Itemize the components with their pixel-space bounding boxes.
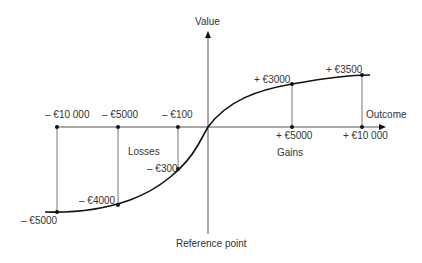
value-axis-arrow-icon <box>205 31 211 38</box>
value-label-minus-300: – €300 <box>147 164 178 174</box>
value-label-minus-5000: – €5000 <box>21 216 57 226</box>
data-points <box>55 73 364 214</box>
outcome-axis-label: Outcome <box>366 110 407 120</box>
value-label-plus-3500: + €3500 <box>326 65 362 75</box>
tick-label-minus-10000: – €10 000 <box>45 110 90 120</box>
reference-point-label: Reference point <box>176 239 247 249</box>
value-label-plus-3000: + €3000 <box>254 75 290 85</box>
losses-label: Losses <box>128 147 160 157</box>
value-label-minus-4000: – €4000 <box>79 196 115 206</box>
tick-label-minus-5000: – €5000 <box>102 110 138 120</box>
guide-lines <box>57 75 362 212</box>
tick-label-minus-100: – €100 <box>162 110 193 120</box>
tick-label-plus-10000: + €10 000 <box>343 131 388 141</box>
gains-label: Gains <box>277 148 303 158</box>
tick-label-plus-5000: + €5000 <box>276 131 312 141</box>
value-axis-label: Value <box>195 17 220 27</box>
